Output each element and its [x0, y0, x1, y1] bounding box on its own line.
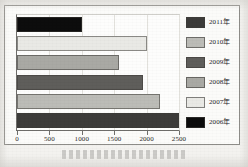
x-tick-label: 0: [15, 135, 19, 143]
bar: [17, 94, 160, 109]
legend-item[interactable]: 2011年: [186, 12, 238, 32]
plot-area: 05001000150020002500: [16, 14, 180, 131]
legend-item-label: 2008年: [209, 78, 231, 86]
x-tick-label: 2000: [139, 135, 153, 143]
x-tick-label: 2500: [172, 135, 186, 143]
bar: [17, 36, 147, 51]
legend-swatch-icon: [186, 17, 205, 28]
legend-swatch-icon: [186, 57, 205, 68]
legend-item-label: 2010年: [209, 38, 231, 46]
legend-item[interactable]: 2010年: [186, 32, 238, 52]
x-tick-label: 1500: [107, 135, 121, 143]
legend-item-label: 2007年: [209, 98, 231, 106]
bar: [17, 17, 82, 32]
legend-item-label: 2011年: [209, 18, 230, 26]
legend-item-label: 2006年: [209, 118, 231, 126]
legend-swatch-icon: [186, 97, 205, 108]
legend-item-label: 2009年: [209, 58, 231, 66]
legend-swatch-icon: [186, 117, 205, 128]
legend-swatch-icon: [186, 37, 205, 48]
x-tick-label: 500: [44, 135, 55, 143]
legend-item[interactable]: 2007年: [186, 92, 238, 112]
legend-item[interactable]: 2006年: [186, 112, 238, 132]
legend-item[interactable]: 2008年: [186, 72, 238, 92]
bar: [17, 75, 143, 90]
bar: [17, 55, 119, 70]
figure-caption-strip: [62, 150, 186, 159]
bar-chart-figure: 05001000150020002500 2011年2010年2009年2008…: [0, 0, 248, 167]
x-tick-label: 1000: [75, 135, 89, 143]
legend-item[interactable]: 2009年: [186, 52, 238, 72]
legend-swatch-icon: [186, 77, 205, 88]
chart-legend: 2011年2010年2009年2008年2007年2006年: [186, 12, 238, 132]
bar: [17, 113, 179, 128]
bar-series: [17, 15, 179, 130]
gridline: [179, 15, 180, 130]
